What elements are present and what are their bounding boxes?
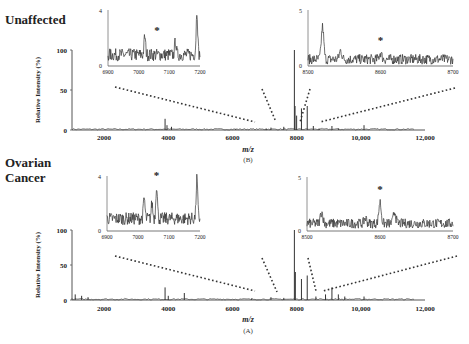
y-tick-label: 0 <box>64 127 68 135</box>
y-tick-label: 0 <box>64 297 68 305</box>
asterisk-annotation: * <box>154 24 160 36</box>
inset-8500-8700: 05850086008700* <box>299 8 459 75</box>
inset-x-tick-label: 8500 <box>303 69 314 75</box>
zoom-guide-line <box>262 258 277 292</box>
x-tick-label: 10,000 <box>351 305 371 313</box>
x-tick-label: 4000 <box>161 134 176 142</box>
y-axis-label: Relative Intensity (%) <box>34 56 42 123</box>
y-tick-label: 100 <box>57 47 68 55</box>
inset-x-tick-label: 8700 <box>448 234 459 240</box>
x-tick-label: 10,000 <box>351 134 371 142</box>
inset-x-tick-label: 6900 <box>103 69 114 75</box>
y-tick-label: 50 <box>60 262 68 270</box>
panel-caption: (A) <box>243 327 253 335</box>
inset-x-tick-label: 7100 <box>164 69 175 75</box>
inset-x-tick-label: 7200 <box>195 69 206 75</box>
x-tick-label: 6000 <box>225 134 240 142</box>
inset-x-tick-label: 8600 <box>375 69 386 75</box>
x-tick-label: 12,000 <box>415 305 435 313</box>
x-axis-label: m/z <box>242 315 254 324</box>
y-axis-label: Relative Intensity (%) <box>34 231 42 298</box>
y-tick-label: 100 <box>57 227 68 235</box>
inset-x-tick-label: 7000 <box>133 234 144 240</box>
inset-y-tick-label: 4 <box>99 8 102 14</box>
inset-trace <box>107 174 200 225</box>
zoom-guide-line <box>262 89 276 122</box>
spectra-plot: 050100200040006000800010,00012,000Relati… <box>0 0 469 344</box>
inset-x-tick-label: 7100 <box>164 234 175 240</box>
inset-6900-7200: 046900700071007200* <box>98 169 206 240</box>
inset-trace <box>307 199 453 228</box>
inset-8500-8700: 05850086008700* <box>298 175 459 240</box>
inset-x-tick-label: 8600 <box>375 234 386 240</box>
x-tick-label: 8000 <box>290 134 305 142</box>
panel-caption: (B) <box>243 156 253 164</box>
panel-unaffected: 050100200040006000800010,00012,000Relati… <box>34 8 459 164</box>
inset-y-tick-label: 5 <box>299 8 302 14</box>
y-tick-label: 50 <box>60 87 68 95</box>
zoom-guide-line <box>300 89 310 122</box>
inset-x-tick-label: 8500 <box>302 234 313 240</box>
zoom-guide-line <box>115 256 255 291</box>
x-tick-label: 4000 <box>161 305 176 313</box>
inset-x-tick-label: 6900 <box>102 234 113 240</box>
asterisk-annotation: * <box>378 34 384 46</box>
x-tick-label: 8000 <box>290 305 305 313</box>
inset-6900-7200: 046900700071007200* <box>99 8 206 75</box>
x-tick-label: 12,000 <box>415 134 435 142</box>
x-tick-label: 2000 <box>97 134 112 142</box>
zoom-guide-line <box>115 87 255 122</box>
inset-x-tick-label: 8700 <box>448 69 459 75</box>
inset-y-tick-label: 5 <box>298 175 301 181</box>
zoom-guide-line <box>323 256 457 291</box>
asterisk-annotation: * <box>377 183 383 195</box>
inset-x-tick-label: 7200 <box>195 234 206 240</box>
zoom-guide-line <box>320 88 455 122</box>
inset-x-tick-label: 7000 <box>133 69 144 75</box>
inset-trace <box>108 15 200 61</box>
asterisk-annotation: * <box>154 169 160 181</box>
zoom-guide-line <box>308 258 316 291</box>
inset-y-tick-label: 4 <box>98 174 101 180</box>
x-tick-label: 2000 <box>97 305 112 313</box>
panel-ovarian-cancer: 050100200040006000800010,00012,000Relati… <box>34 169 459 335</box>
x-tick-label: 6000 <box>225 305 240 313</box>
mass-spectra-figure: Unaffected Ovarian Cancer 05010020004000… <box>0 0 469 344</box>
x-axis-label: m/z <box>242 145 254 154</box>
